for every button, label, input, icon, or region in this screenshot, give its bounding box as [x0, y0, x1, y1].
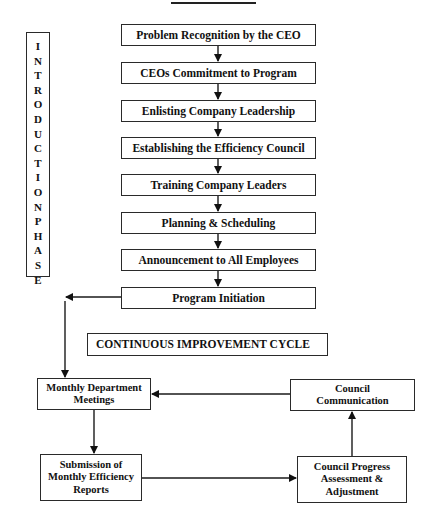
box-line: Council Progress	[314, 461, 390, 474]
step-enlisting-leadership: Enlisting Company Leadership	[121, 100, 316, 122]
intro-letter: O	[34, 185, 43, 200]
intro-letter: T	[34, 156, 41, 171]
step-label: Training Company Leaders	[151, 179, 287, 192]
intro-letter: E	[34, 273, 41, 288]
monthly-department-meetings-box: Monthly Department Meetings	[37, 378, 151, 410]
intro-letter: C	[34, 141, 42, 156]
submission-reports-box: Submission of Monthly Efficiency Reports	[40, 454, 142, 501]
step-label: Planning & Scheduling	[162, 217, 276, 230]
intro-letter: H	[34, 229, 43, 244]
introduction-phase-label: I N T R O D U C T I O N P H A S E	[26, 32, 50, 277]
step-ceo-commitment: CEOs Commitment to Program	[121, 62, 316, 84]
box-line: Council	[335, 383, 370, 396]
intro-letter: A	[34, 243, 42, 258]
box-line: Meetings	[74, 394, 115, 407]
title-underline	[171, 2, 256, 4]
step-label: CEOs Commitment to Program	[140, 67, 297, 80]
cycle-header-label: CONTINUOUS IMPROVEMENT CYCLE	[96, 338, 310, 351]
step-program-initiation: Program Initiation	[121, 287, 316, 309]
intro-letter: I	[36, 170, 40, 185]
step-planning-scheduling: Planning & Scheduling	[121, 212, 316, 234]
box-line: Adjustment	[325, 486, 378, 499]
box-line: Monthly Efficiency	[48, 471, 134, 484]
intro-letter: U	[34, 127, 42, 142]
box-line: Reports	[73, 484, 109, 497]
intro-letter: T	[34, 68, 41, 83]
step-label: Enlisting Company Leadership	[142, 105, 295, 118]
step-training-leaders: Training Company Leaders	[121, 174, 316, 196]
intro-letter: S	[35, 258, 41, 273]
step-announcement: Announcement to All Employees	[121, 249, 316, 271]
intro-letter: N	[34, 54, 42, 69]
box-line: Submission of	[60, 459, 123, 472]
intro-letter: R	[34, 83, 42, 98]
box-line: Assessment &	[321, 473, 384, 486]
step-efficiency-council: Establishing the Efficiency Council	[121, 137, 316, 159]
council-progress-assessment-box: Council Progress Assessment & Adjustment	[297, 456, 407, 503]
step-label: Problem Recognition by the CEO	[136, 29, 301, 42]
intro-letter: N	[34, 200, 42, 215]
intro-letter: I	[36, 39, 40, 54]
box-line: Communication	[316, 395, 388, 408]
step-problem-recognition: Problem Recognition by the CEO	[121, 24, 316, 46]
council-communication-box: Council Communication	[290, 379, 415, 411]
step-label: Establishing the Efficiency Council	[132, 142, 304, 155]
intro-letter: D	[34, 112, 42, 127]
continuous-improvement-header: CONTINUOUS IMPROVEMENT CYCLE	[87, 333, 328, 356]
intro-letter: P	[35, 214, 42, 229]
step-label: Program Initiation	[172, 292, 265, 305]
step-label: Announcement to All Employees	[138, 254, 298, 267]
intro-letter: O	[34, 97, 43, 112]
box-line: Monthly Department	[46, 382, 141, 395]
